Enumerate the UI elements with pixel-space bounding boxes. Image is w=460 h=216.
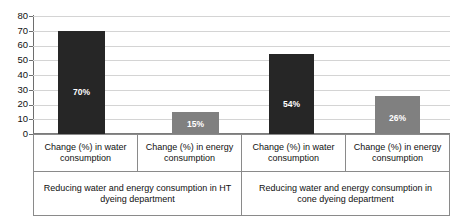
bar-value-cone-water: 54% [269, 99, 314, 109]
bar-value-ht-energy: 15% [172, 119, 219, 129]
y-tick-10: 10 [4, 114, 28, 124]
bar-cone-water: 54% [269, 54, 314, 134]
gridline-80 [33, 16, 450, 17]
category-cell-cone-water: Change (%) in water consumption [241, 135, 345, 171]
category-cell-ht-water: Change (%) in water consumption [34, 135, 137, 171]
category-cell-cone-energy: Change (%) in energy consumption [345, 135, 449, 171]
bar-cone-energy: 26% [375, 96, 420, 134]
bar-ht-water: 70% [58, 31, 105, 134]
y-tick-40: 40 [4, 70, 28, 80]
category-row: Change (%) in water consumption Change (… [34, 134, 449, 172]
y-tick-80: 80 [4, 11, 28, 21]
y-tick-0: 0 [4, 129, 28, 139]
y-tick-50: 50 [4, 55, 28, 65]
bar-value-cone-energy: 26% [375, 113, 420, 123]
plot-area: 70% 15% 54% 26% [33, 16, 450, 134]
y-tick-60: 60 [4, 40, 28, 50]
group-cell-cone: Reducing water and energy consumption in… [241, 172, 449, 215]
bar-value-ht-water: 70% [58, 87, 105, 97]
group-row: Reducing water and energy consumption in… [34, 172, 449, 216]
y-tick-70: 70 [4, 26, 28, 36]
bar-ht-energy: 15% [172, 112, 219, 134]
category-cell-ht-energy: Change (%) in energy consumption [137, 135, 241, 171]
category-label-table: Change (%) in water consumption Change (… [33, 134, 450, 216]
bar-chart: 80 70 60 50 40 30 20 10 0 70% 15% [0, 0, 460, 216]
y-tick-20: 20 [4, 99, 28, 109]
y-tick-30: 30 [4, 85, 28, 95]
group-cell-ht: Reducing water and energy consumption in… [34, 172, 241, 215]
